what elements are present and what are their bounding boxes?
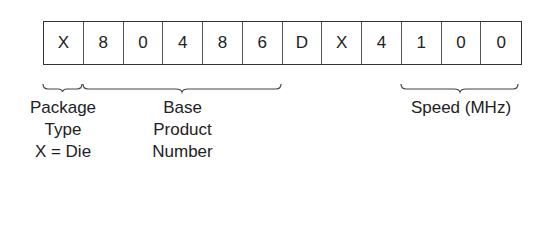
package-line-1: Package [18, 97, 108, 119]
base-brace-icon [83, 84, 281, 92]
base-line-2: Product [140, 119, 225, 141]
package-brace-icon [43, 84, 82, 92]
speed-line-1: Speed (MHz) [400, 97, 522, 119]
package-line-3: X = Die [18, 141, 108, 163]
speed-brace-icon [401, 84, 518, 92]
speed-label: Speed (MHz) [400, 97, 522, 119]
base-line-1: Base [140, 97, 225, 119]
base-product-label: Base Product Number [140, 97, 225, 163]
base-line-3: Number [140, 141, 225, 163]
package-type-label: Package Type X = Die [18, 97, 108, 163]
package-line-2: Type [18, 119, 108, 141]
